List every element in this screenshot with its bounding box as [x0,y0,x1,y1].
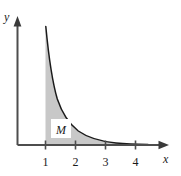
x-axis-label: x [162,152,169,166]
hyperbola-area-figure: 1 2 3 4 y x M [0,0,181,176]
x-axis-arrowhead [159,141,170,149]
x-tick-label-2: 2 [73,155,79,169]
y-axis-arrowhead [14,16,22,27]
x-tick-label-3: 3 [103,155,109,169]
x-tick-label-4: 4 [133,155,139,169]
y-axis-label: y [3,10,10,24]
figure-canvas: 1 2 3 4 y x M [0,0,181,176]
region-label-M: M [55,123,67,137]
x-tick-label-1: 1 [43,155,49,169]
